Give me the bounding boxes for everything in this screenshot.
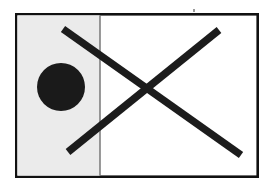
figure-canvas: Abstract figure: bordered frame with sha… xyxy=(0,0,274,189)
figure-svg: Abstract figure: bordered frame with sha… xyxy=(0,0,274,189)
top-edge-tick xyxy=(193,9,195,12)
black-disc xyxy=(37,63,85,111)
